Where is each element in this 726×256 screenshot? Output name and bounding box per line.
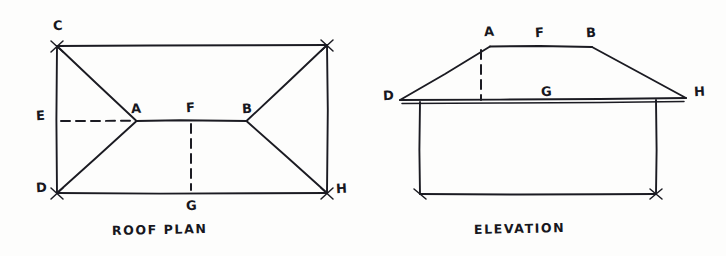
hip-line-topright-b: [247, 46, 327, 121]
roof-plan-label-b: B: [242, 101, 253, 117]
elevation-caption: ELEVATION: [474, 220, 566, 237]
elevation-label-h: H: [694, 84, 706, 100]
elevation-wall-base: [420, 194, 656, 195]
elevation-label-g: G: [541, 84, 553, 100]
hip-line-c-a: [58, 47, 137, 121]
roof-plan-group: [51, 40, 333, 199]
roof-plan-caption: ROOF PLAN: [112, 221, 208, 238]
hip-line-d-a: [58, 122, 137, 193]
roof-plan-label-g: G: [186, 198, 198, 214]
roof-plan-label-h: H: [336, 181, 348, 197]
elevation-left-slope: [400, 47, 490, 101]
elevation-label-f: F: [535, 25, 545, 40]
roof-plan-left-edge: [56, 46, 57, 193]
roof-plan-label-f: F: [186, 100, 196, 115]
elevation-label-b: B: [586, 25, 597, 41]
elevation-right-slope: [592, 47, 686, 98]
ridge-line-a-b: [136, 120, 247, 121]
roof-plan-label-c: C: [53, 18, 64, 34]
roof-plan-right-edge: [327, 45, 328, 193]
elevation-wall-right: [656, 100, 657, 194]
roof-plan-label-d: D: [36, 180, 48, 196]
sketch-canvas: C E D A F B G H ROOF PLAN A F B D G H EL…: [0, 0, 726, 256]
elevation-label-d: D: [383, 88, 395, 104]
hip-line-h-b: [247, 122, 327, 193]
roof-plan-top-edge: [57, 45, 327, 46]
elevation-wall-left: [419, 102, 420, 194]
roof-plan-label-e: E: [36, 108, 46, 123]
sketch-drawing: [0, 0, 726, 256]
elevation-fascia-line: [402, 101, 684, 103]
elevation-ridge-a-b: [490, 46, 592, 47]
elevation-group: [400, 46, 686, 199]
elevation-label-a: A: [484, 24, 495, 40]
roof-plan-bottom-edge: [57, 193, 327, 194]
roof-plan-label-a: A: [131, 101, 142, 117]
